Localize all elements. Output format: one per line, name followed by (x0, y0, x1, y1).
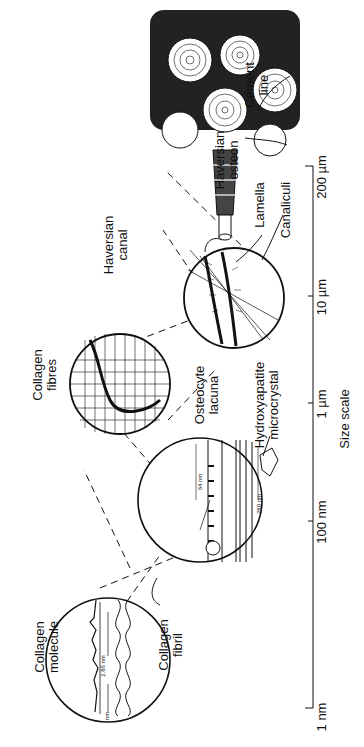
dim-fibril-gap: 64 nm (197, 467, 205, 497)
label-collagen-fibres: Collagen fibres (31, 345, 61, 405)
scale-tick-100nm: 100 nm (315, 492, 329, 552)
scale-tick-1nm: 1 nm (315, 695, 329, 739)
dim-fibril-period: 280 nm (256, 487, 264, 521)
label-haversian-osteon: Haversian osteon (213, 127, 243, 193)
size-scale-axis (305, 166, 313, 708)
osteocyte-lacuna-circle (184, 248, 284, 348)
label-osteocyte-lacuna: Osteocyte lacuna (193, 362, 223, 428)
scale-tick-10um: 10 µm (315, 271, 329, 323)
scale-title: Size scale (338, 384, 352, 454)
label-lamella: Lamella (253, 177, 269, 233)
label-collagen-fibril: Collagen fibril (157, 613, 187, 677)
label-canaliculi: Canaliculi (279, 175, 295, 245)
label-haversian-canal: Haversian canal (102, 212, 132, 278)
dim-molecule-period: 2.86 nm (100, 646, 108, 686)
scale-tick-200um: 200 µm (315, 147, 329, 207)
collagen-molecule-circle (46, 598, 170, 722)
scale-tick-1um: 1 µm (315, 382, 329, 426)
label-collagen-molecule: Collagen molecule (33, 609, 63, 685)
label-cement-line: Cement line (243, 52, 273, 118)
dim-molecule-width: nm (104, 708, 112, 724)
label-hydroxyapatite: Hydroxyapatite microcrystal (253, 357, 283, 453)
collagen-fibres-circle (70, 334, 170, 434)
